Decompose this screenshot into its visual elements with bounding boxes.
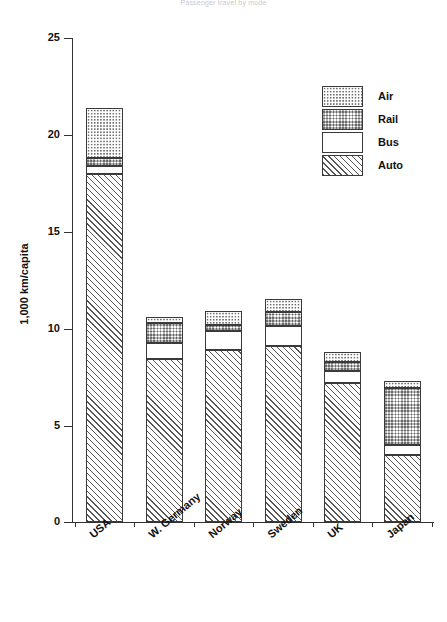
legend-swatch-air-icon <box>322 86 363 107</box>
legend-item-auto[interactable]: Auto <box>322 155 434 178</box>
y-tick-label-0: 0 <box>28 516 60 527</box>
legend-swatch-rail-icon <box>322 109 363 130</box>
bar-segment-usa-air[interactable] <box>86 108 123 158</box>
bar-segment-w-germany-bus[interactable] <box>146 343 183 359</box>
bar-segment-w-germany-air[interactable] <box>146 317 183 323</box>
y-tick-label-20: 20 <box>28 129 60 140</box>
legend-label-air: Air <box>378 90 393 102</box>
y-tick-label-5: 5 <box>28 420 60 431</box>
bar-group-usa[interactable] <box>86 38 123 522</box>
bar-group-w-germany[interactable] <box>146 38 183 522</box>
bar-group-norway[interactable] <box>205 38 242 522</box>
y-tick-label-0-wrap: 0 <box>16 516 60 528</box>
y-tick-label-5-wrap: 5 <box>16 420 60 432</box>
y-tick-label-15-wrap: 15 <box>16 226 60 238</box>
legend-item-air[interactable]: Air <box>322 86 434 109</box>
x-tick-mark-end <box>432 522 433 527</box>
x-tick-mark-usa <box>75 522 76 527</box>
bar-segment-w-germany-rail[interactable] <box>146 323 183 343</box>
chart-legend: Air Rail Bus Auto <box>322 86 434 178</box>
x-tick-mark-norway <box>194 522 195 527</box>
bar-segment-norway-air[interactable] <box>205 311 242 325</box>
x-axis-label-uk: UK <box>325 521 345 540</box>
bar-segment-norway-auto[interactable] <box>205 350 242 522</box>
y-tick-mark-15 <box>64 232 72 233</box>
y-tick-label-25-wrap: 25 <box>16 32 60 44</box>
bar-segment-japan-rail[interactable] <box>384 388 421 444</box>
bar-segment-uk-rail[interactable] <box>324 362 361 371</box>
bar-segment-usa-bus[interactable] <box>86 166 123 174</box>
legend-item-rail[interactable]: Rail <box>322 109 434 132</box>
legend-swatch-bus-icon <box>322 132 363 153</box>
y-tick-mark-10 <box>64 329 72 330</box>
x-tick-mark-sweden <box>253 522 254 527</box>
x-tick-mark-japan <box>372 522 373 527</box>
y-tick-mark-5 <box>64 426 72 427</box>
bar-segment-sweden-rail[interactable] <box>265 312 302 327</box>
bar-segment-sweden-auto[interactable] <box>265 346 302 522</box>
bar-segment-sweden-air[interactable] <box>265 299 302 312</box>
legend-swatch-auto-icon <box>322 155 363 176</box>
bar-segment-usa-auto[interactable] <box>86 174 123 522</box>
y-tick-mark-0 <box>64 522 72 523</box>
bar-segment-japan-bus[interactable] <box>384 445 421 456</box>
y-tick-label-10: 10 <box>28 323 60 334</box>
y-axis-title: 1,000 km/capita <box>18 194 30 374</box>
bar-segment-japan-air[interactable] <box>384 381 421 389</box>
bar-segment-uk-auto[interactable] <box>324 383 361 522</box>
bar-segment-norway-rail[interactable] <box>205 325 242 332</box>
bar-segment-w-germany-auto[interactable] <box>146 359 183 522</box>
chart-title: Passenger travel by mode <box>0 0 447 7</box>
bar-segment-norway-bus[interactable] <box>205 331 242 349</box>
bar-group-sweden[interactable] <box>265 38 302 522</box>
legend-label-rail: Rail <box>378 113 398 125</box>
x-tick-mark-w-germany <box>134 522 135 527</box>
legend-label-auto: Auto <box>378 159 403 171</box>
y-tick-label-15: 15 <box>28 226 60 237</box>
y-axis-line <box>72 38 73 523</box>
bar-segment-uk-bus[interactable] <box>324 371 361 383</box>
legend-label-bus: Bus <box>378 136 399 148</box>
x-tick-mark-uk <box>313 522 314 527</box>
bar-segment-usa-rail[interactable] <box>86 158 123 166</box>
bar-segment-uk-air[interactable] <box>324 352 361 363</box>
bar-segment-sweden-bus[interactable] <box>265 326 302 345</box>
chart-container: Passenger travel by mode 1,000 km/capita… <box>0 0 447 622</box>
y-tick-mark-25 <box>64 38 72 39</box>
bar-segment-japan-auto[interactable] <box>384 455 421 522</box>
y-tick-mark-20 <box>64 135 72 136</box>
legend-item-bus[interactable]: Bus <box>322 132 434 155</box>
y-tick-label-10-wrap: 10 <box>16 323 60 335</box>
y-tick-label-25: 25 <box>28 32 60 43</box>
y-tick-label-20-wrap: 20 <box>16 129 60 141</box>
